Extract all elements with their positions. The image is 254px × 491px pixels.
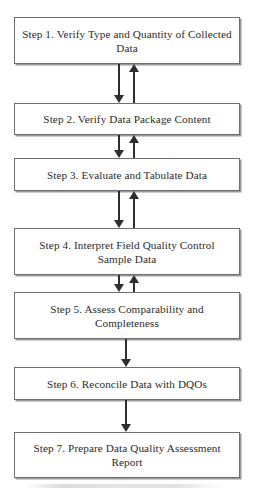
connector-step4-step5: [0, 275, 254, 292]
arrow-down-icon: [113, 135, 126, 158]
flow-node-step6-label: Step 6. Reconcile Data with DQOs: [41, 377, 213, 391]
arrow-up-icon: [128, 191, 141, 228]
arrow-up-icon: [128, 275, 141, 292]
connector-step3-step4: [0, 191, 254, 228]
arrow-down-icon: [113, 64, 126, 103]
flow-node-step6: Step 6. Reconcile Data with DQOs: [14, 367, 240, 400]
connector-step5-step6: [0, 339, 254, 367]
arrow-down-icon: [113, 191, 126, 228]
flow-node-step4: Step 4. Interpret Field Quality Control …: [14, 228, 240, 275]
flow-node-step7-label: Step 7. Prepare Data Quality Assessment …: [15, 441, 239, 469]
flow-node-step1: Step 1. Verify Type and Quantity of Coll…: [14, 17, 240, 64]
flow-node-step3-label: Step 3. Evaluate and Tabulate Data: [41, 168, 213, 182]
flow-node-step4-label: Step 4. Interpret Field Quality Control …: [15, 238, 239, 266]
arrow-down-icon: [120, 339, 133, 367]
connector-step1-step2: [0, 64, 254, 103]
flow-node-step7: Step 7. Prepare Data Quality Assessment …: [14, 432, 240, 478]
flow-node-step1-label: Step 1. Verify Type and Quantity of Coll…: [15, 27, 239, 55]
flow-node-step5-label: Step 5. Assess Comparability and Complet…: [15, 302, 239, 330]
connector-step2-step3: [0, 135, 254, 158]
flow-node-step2-label: Step 2. Verify Data Package Content: [37, 112, 216, 126]
scan-artifact: [26, 484, 222, 488]
flow-node-step3: Step 3. Evaluate and Tabulate Data: [14, 158, 240, 191]
flow-node-step2: Step 2. Verify Data Package Content: [14, 103, 240, 135]
arrow-down-icon: [120, 400, 133, 432]
connector-step6-step7: [0, 400, 254, 432]
flowchart: Step 1. Verify Type and Quantity of Coll…: [0, 0, 254, 491]
arrow-up-icon: [128, 64, 141, 103]
flow-node-step5: Step 5. Assess Comparability and Complet…: [14, 292, 240, 339]
arrow-down-icon: [113, 275, 126, 292]
arrow-up-icon: [128, 135, 141, 158]
